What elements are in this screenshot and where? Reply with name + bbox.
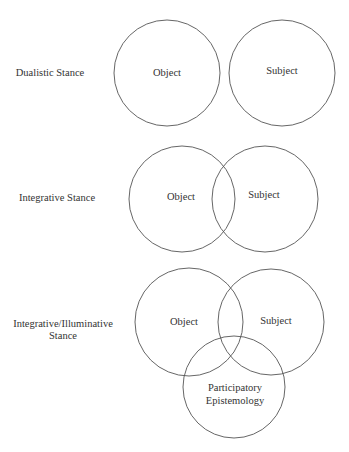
integrative-illuminative-stance-group: Integrative/Illuminative Stance Object S…: [13, 268, 324, 438]
dualistic-stance-group: Dualistic Stance Object Subject: [16, 20, 335, 126]
integrative-illuminative-stance-label-line1: Integrative/Illuminative: [13, 318, 113, 329]
integrative-stance-label: Integrative Stance: [19, 192, 95, 203]
integrative-subject-label: Subject: [248, 189, 280, 200]
dualistic-subject-label: Subject: [266, 65, 298, 76]
integrative-object-label: Object: [167, 191, 195, 202]
integrative-stance-group: Integrative Stance Object Subject: [19, 146, 318, 252]
participatory-label-line1: Participatory: [208, 382, 263, 393]
dualistic-object-label: Object: [153, 67, 181, 78]
integrative-illuminative-stance-label-line2: Stance: [49, 330, 77, 341]
illuminative-object-label: Object: [170, 316, 198, 327]
participatory-label-line2: Epistemology: [206, 395, 265, 406]
dualistic-stance-label: Dualistic Stance: [16, 67, 85, 78]
venn-diagram: Dualistic Stance Object Subject Integrat…: [0, 0, 349, 452]
illuminative-subject-label: Subject: [260, 315, 292, 326]
